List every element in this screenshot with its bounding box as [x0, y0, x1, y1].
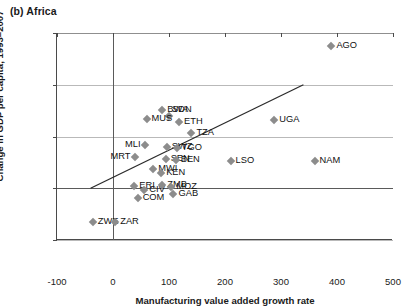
point-label-NAM: NAM: [320, 156, 341, 165]
y-axis-label: Change in GDP per capita, 1993–2007: [0, 11, 5, 182]
trend-line: [57, 33, 393, 240]
gridline-y--0.5: [57, 240, 393, 241]
x-axis-label: Manufacturing value added growth rate: [57, 295, 393, 306]
point-label-UGA: UGA: [279, 115, 299, 124]
point-label-LSO: LSO: [236, 156, 255, 165]
x-tick-label-100: 100: [149, 277, 189, 287]
x-tick-label-300: 300: [261, 277, 301, 287]
point-label-TZA: TZA: [196, 128, 214, 137]
point-label-TGO: TGO: [182, 143, 202, 152]
x-tick-label-0: 0: [93, 277, 133, 287]
point-label-MLI: MLI: [125, 140, 141, 149]
x-tick-mark-500: [393, 33, 394, 37]
x-tick-label-400: 400: [317, 277, 357, 287]
y-tick-mark-1.5: [53, 240, 57, 241]
point-label-ETH: ETH: [184, 117, 203, 126]
point-label-COM: COM: [143, 193, 165, 202]
plot-area: 1.510.50-0.5-1000100200300400500 AGOBWAS…: [56, 33, 392, 240]
point-label-MRT: MRT: [110, 152, 130, 161]
point-label-MUS: MUS: [152, 114, 173, 123]
x-tick-label--100: -100: [37, 277, 77, 287]
panel-title-text: Africa: [26, 5, 56, 17]
point-label-AGO: AGO: [336, 41, 357, 50]
point-label-SDN: SDN: [172, 105, 192, 114]
y-axis-label-container: Change in GDP per capita, 1993–2007: [8, 0, 22, 207]
point-label-ZAR: ZAR: [120, 217, 139, 226]
point-label-KEN: KEN: [166, 168, 185, 177]
x-tick-label-200: 200: [205, 277, 245, 287]
point-label-BEN: BEN: [181, 155, 200, 164]
point-label-GAB: GAB: [178, 189, 198, 198]
x-tick-label-500: 500: [373, 277, 411, 287]
